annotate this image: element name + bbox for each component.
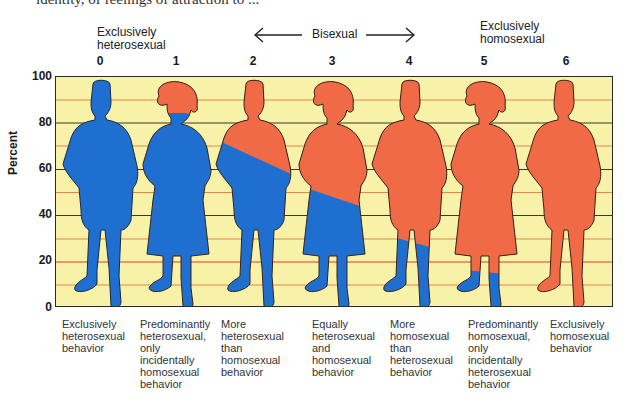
label-line: homosexual [312,354,392,366]
label-line: Exclusively [62,318,142,330]
label-line: heterosexual [221,330,301,342]
label-line: Predominantly [468,318,548,330]
label-line: More [390,318,470,330]
category-label-0: Exclusively heterosexual behavior [62,318,142,354]
label-line: homosexual [550,330,630,342]
scale-number-2: 2 [243,54,263,68]
bisexual-label: Bisexual [312,27,357,41]
label-line: Exclusively [550,318,630,330]
label-line: heterosexual, [140,330,220,342]
label-line: incidentally [140,354,220,366]
category-label-3: Equally heterosexual and homosexual beha… [312,318,392,378]
figure-6-male-exclusively-homosexual [526,80,601,307]
y-tick-40: 40 [24,208,52,220]
label-line: Predominantly [140,318,220,330]
label-line: heterosexual [390,354,470,366]
label-line: behavior [468,378,548,390]
category-label-4: More homosexual than heterosexual behavi… [390,318,470,378]
label-exclusively-heterosexual: Exclusively heterosexual [97,26,166,52]
label-line: homosexual [221,354,301,366]
scale-number-3: 3 [322,54,342,68]
label-line: than [221,342,301,354]
y-tick-80: 80 [24,116,52,128]
label-line: homosexual [480,33,545,46]
label-line: behavior [221,366,301,378]
label-line: only [468,342,548,354]
label-line: heterosexual [97,39,166,52]
figure-0-male-exclusively-heterosexual [63,80,138,307]
scale-number-4: 4 [399,54,419,68]
cut-off-caption-text: identity, of feelings of attraction to .… [36,0,259,8]
label-line: behavior [62,342,142,354]
label-line: homosexual [390,330,470,342]
label-line: behavior [390,366,470,378]
label-line: behavior [140,378,220,390]
label-line: only [140,342,220,354]
category-label-2: More heterosexual than homosexual behavi… [221,318,301,378]
gridlines-and-figures [56,77,613,307]
bisexual-annotation: Bisexual [250,25,420,45]
scale-number-6: 6 [556,54,576,68]
category-label-5: Predominantly homosexual, only incidenta… [468,318,548,390]
category-label-6: Exclusively homosexual behavior [550,318,630,354]
label-line: behavior [550,342,630,354]
y-axis-label: Percent [6,131,20,175]
label-line: homosexual, [468,330,548,342]
label-line: incidentally [468,354,548,366]
plot-area [55,76,613,307]
y-tick-20: 20 [24,254,52,266]
scale-number-5: 5 [474,54,494,68]
label-line: heterosexual [312,330,392,342]
label-line: behavior [312,366,392,378]
label-line: homosexual [140,366,220,378]
scale-number-0: 0 [90,54,110,68]
y-tick-60: 60 [24,162,52,174]
y-tick-0: 0 [24,301,52,313]
label-line: Equally [312,318,392,330]
label-line: heterosexual [62,330,142,342]
category-label-1: Predominantly heterosexual, only inciden… [140,318,220,390]
label-line: heterosexual [468,366,548,378]
label-line: and [312,342,392,354]
y-tick-100: 100 [24,70,52,82]
label-line: More [221,318,301,330]
scale-number-1: 1 [166,54,186,68]
label-line: than [390,342,470,354]
label-exclusively-homosexual: Exclusively homosexual [480,20,545,46]
